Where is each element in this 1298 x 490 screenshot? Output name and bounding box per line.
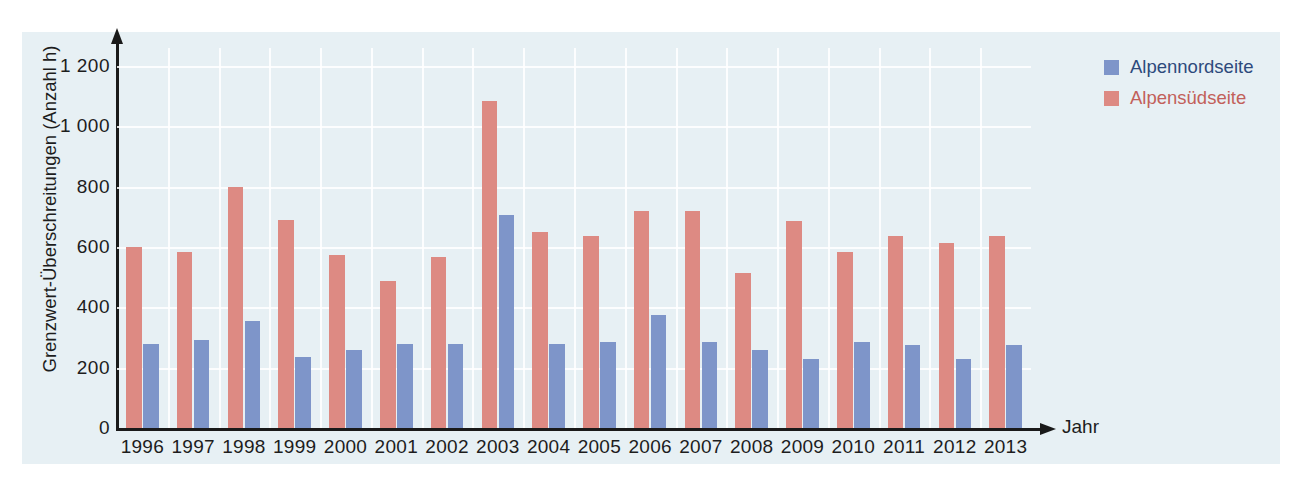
bar (245, 321, 261, 428)
legend-swatch-icon (1104, 91, 1119, 106)
bar (499, 215, 515, 428)
y-axis-arrow-icon (111, 28, 123, 44)
bar (329, 255, 345, 428)
bar (278, 220, 294, 428)
gridline-vertical (523, 48, 525, 428)
bar (956, 359, 972, 428)
y-tick-label: 0 (40, 417, 110, 439)
bar (989, 236, 1005, 428)
y-axis-title: Grenzwert-Überschreitungen (Anzahl h) (39, 0, 61, 419)
bar (786, 221, 802, 428)
gridline-vertical (828, 48, 830, 428)
x-tick-label: 1998 (222, 436, 265, 458)
gridline-vertical (980, 48, 982, 428)
bar (143, 344, 159, 428)
bar (600, 342, 616, 428)
x-axis-title: Jahr (1062, 416, 1099, 438)
x-tick-label: 2011 (883, 436, 925, 458)
x-tick-label: 2008 (730, 436, 773, 458)
gridline-vertical (879, 48, 881, 428)
x-tick-label: 2013 (984, 436, 1027, 458)
x-axis-line (116, 428, 1041, 431)
bar (837, 252, 853, 428)
gridline-vertical (472, 48, 474, 428)
bar (228, 187, 244, 428)
x-tick-label: 2010 (832, 436, 875, 458)
gridline-vertical (625, 48, 627, 428)
x-tick-label: 2005 (578, 436, 621, 458)
bar (905, 345, 921, 428)
gridline-vertical (929, 48, 931, 428)
legend-item[interactable]: Alpensüdseite (1104, 87, 1284, 109)
x-tick-label: 2004 (527, 436, 570, 458)
x-tick-label: 2003 (476, 436, 519, 458)
bar (634, 211, 650, 428)
bar (888, 236, 904, 428)
gridline-vertical (219, 48, 221, 428)
x-tick-label: 2009 (781, 436, 824, 458)
gridline-vertical (726, 48, 728, 428)
gridline-vertical (371, 48, 373, 428)
bar (532, 232, 548, 428)
legend-label: Alpensüdseite (1130, 87, 1246, 109)
x-tick-label: 1996 (121, 436, 164, 458)
gridline-vertical (676, 48, 678, 428)
x-tick-label: 2001 (375, 436, 418, 458)
gridline-vertical (168, 48, 170, 428)
bar (735, 273, 751, 428)
gridline-vertical (269, 48, 271, 428)
x-tick-label: 2006 (628, 436, 671, 458)
chart-legend: AlpennordseiteAlpensüdseite (1104, 56, 1284, 118)
gridline-vertical (574, 48, 576, 428)
bar (295, 357, 311, 428)
bar (803, 359, 819, 428)
bar (126, 247, 142, 428)
plot-area (117, 48, 1031, 428)
bar (397, 344, 413, 428)
bar (177, 252, 193, 428)
x-tick-label: 2000 (324, 436, 367, 458)
bar (380, 281, 396, 428)
bar (583, 236, 599, 428)
x-axis-arrow-icon (1040, 423, 1056, 435)
chart-figure: 02004006008001 0001 200 1996199719981999… (0, 0, 1298, 490)
x-tick-label: 1999 (273, 436, 316, 458)
gridline-vertical (320, 48, 322, 428)
legend-swatch-icon (1104, 60, 1119, 75)
gridline-vertical (422, 48, 424, 428)
x-tick-label: 2007 (679, 436, 722, 458)
x-tick-label: 2002 (425, 436, 468, 458)
legend-item[interactable]: Alpennordseite (1104, 56, 1284, 78)
bar (702, 342, 718, 428)
bar (431, 257, 447, 428)
x-tick-label: 2012 (933, 436, 976, 458)
bar (1006, 345, 1022, 428)
bar (752, 350, 768, 428)
bar (346, 350, 362, 428)
bar (482, 101, 498, 428)
legend-label: Alpennordseite (1130, 56, 1253, 78)
bar (685, 211, 701, 428)
x-tick-label: 1997 (171, 436, 214, 458)
bar (194, 340, 210, 428)
bar (448, 344, 464, 428)
bar (651, 315, 667, 428)
bar (549, 344, 565, 428)
bar (854, 342, 870, 428)
gridline-vertical (777, 48, 779, 428)
bar (939, 243, 955, 428)
